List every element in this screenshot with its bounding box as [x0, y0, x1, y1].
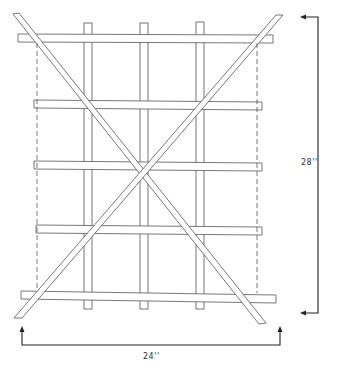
height-label: 28'': [301, 158, 318, 167]
width-dimension: [22, 331, 280, 345]
arrow-left-icon: [300, 15, 306, 20]
arrow-left-icon: [300, 311, 306, 316]
horizontal-bar-2: [34, 100, 262, 110]
width-label: 24'': [143, 352, 160, 361]
trellis-diagram: [0, 0, 349, 369]
horizontal-bar-1: [18, 34, 273, 43]
arrow-up-icon: [278, 326, 283, 332]
arrow-up-icon: [20, 326, 25, 332]
horizontal-bar-4: [36, 225, 262, 235]
